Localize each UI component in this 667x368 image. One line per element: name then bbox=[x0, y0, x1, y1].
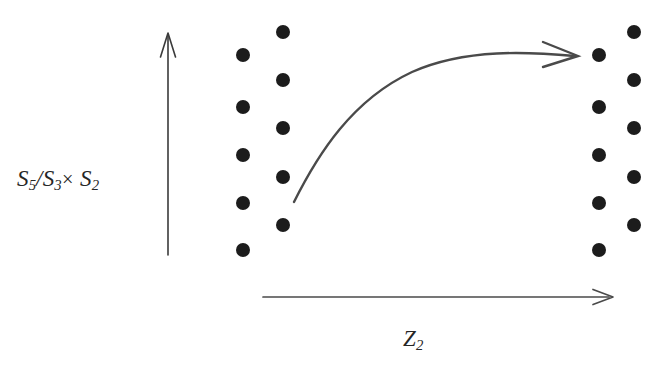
data-point-marker bbox=[592, 48, 606, 62]
data-point-marker bbox=[276, 73, 290, 87]
dot-column-left-cluster-inner-column bbox=[276, 25, 290, 232]
data-point-marker bbox=[276, 170, 290, 184]
dot-column-left-cluster-outer-column bbox=[236, 48, 250, 257]
data-point-marker bbox=[627, 170, 641, 184]
figure-canvas bbox=[0, 0, 667, 368]
data-point-marker bbox=[236, 243, 250, 257]
data-point-marker bbox=[592, 196, 606, 210]
data-point-marker bbox=[627, 25, 641, 39]
data-point-marker bbox=[276, 25, 290, 39]
y-axis-arrow-icon bbox=[161, 33, 176, 255]
data-point-marker bbox=[276, 121, 290, 135]
data-point-marker bbox=[592, 100, 606, 114]
x-axis-label: Z2 bbox=[403, 327, 423, 353]
data-point-marker bbox=[627, 218, 641, 232]
axes-group bbox=[161, 33, 614, 305]
data-point-marker bbox=[276, 218, 290, 232]
y-axis-label: S5/S3× S2 bbox=[17, 167, 99, 193]
data-point-marker bbox=[236, 196, 250, 210]
data-point-marker bbox=[592, 148, 606, 162]
data-point-marker bbox=[592, 243, 606, 257]
data-point-marker bbox=[627, 73, 641, 87]
figure-root: S5/S3× S2 Z2 bbox=[0, 0, 667, 368]
data-point-marker bbox=[236, 148, 250, 162]
dot-column-right-cluster-inner-column bbox=[592, 48, 606, 257]
data-point-marker bbox=[236, 48, 250, 62]
dot-clusters bbox=[236, 25, 641, 257]
data-point-marker bbox=[627, 121, 641, 135]
transition-arrow-icon bbox=[294, 42, 578, 202]
x-axis-arrow-icon bbox=[263, 290, 613, 305]
dot-column-right-cluster-outer-column bbox=[627, 25, 641, 232]
data-point-marker bbox=[236, 100, 250, 114]
